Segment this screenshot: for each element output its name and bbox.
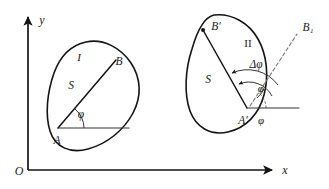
label-delta-phi: Δφ xyxy=(248,58,263,71)
y-axis-label: y xyxy=(38,13,45,27)
segment-ab xyxy=(58,60,116,128)
lamina-outline-one xyxy=(47,41,139,150)
rigid-body-rotation-figure: y x O I S A B φ xyxy=(0,0,329,189)
label-area-one: S xyxy=(68,79,74,91)
dashed-ray-to-b1 xyxy=(250,34,297,106)
label-angle-phi-prime: φ′ xyxy=(258,82,267,94)
figure-canvas: y x O I S A B φ xyxy=(0,0,329,189)
body-position-two: II S A′ B′ B₁ φ φ′ Δφ xyxy=(186,15,313,133)
origin-label: O xyxy=(15,164,24,178)
label-area-two: S xyxy=(205,73,211,85)
x-axis-label: x xyxy=(281,163,288,177)
label-point-a-prime: A′ xyxy=(237,114,248,126)
body-position-one: I S A B φ xyxy=(47,41,139,150)
label-region-one: I xyxy=(76,51,82,63)
label-angle-phi-two: φ xyxy=(258,114,264,126)
label-region-two: II xyxy=(244,37,252,49)
label-point-b-prime: B′ xyxy=(211,20,221,32)
label-point-a: A xyxy=(52,134,61,146)
label-point-b1: B₁ xyxy=(302,21,313,33)
segment-ab-prime xyxy=(203,30,247,108)
angle-sweep-phi-prime xyxy=(239,82,272,96)
label-point-b: B xyxy=(115,55,122,67)
point-marker-b-prime xyxy=(201,28,205,32)
label-angle-phi-one: φ xyxy=(78,108,85,121)
lamina-outline-two xyxy=(186,15,267,133)
